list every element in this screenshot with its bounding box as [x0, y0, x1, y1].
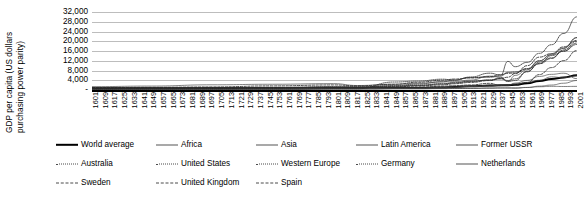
- x-axis-tick-label: 1993: [567, 92, 574, 108]
- x-axis-tick-label: 1881: [432, 92, 439, 108]
- x-axis-tick-label: 1985: [558, 92, 565, 108]
- legend-item-label: Germany: [381, 159, 415, 168]
- series-line: [92, 44, 577, 88]
- x-axis-tick-label: 1641: [141, 92, 148, 108]
- x-axis-tick-label: 1857: [402, 92, 409, 108]
- x-axis-tick-label: 1873: [422, 92, 429, 108]
- x-axis-tick-label: 1737: [257, 92, 264, 108]
- legend-line-swatch-icon: [356, 159, 378, 168]
- x-axis-tick-label: 1817: [354, 92, 361, 108]
- y-axis-tick-label: 4,000: [68, 76, 89, 84]
- x-axis-tick-label: 1769: [296, 92, 303, 108]
- x-axis-tick-label: 1681: [189, 92, 196, 108]
- x-axis-tick-label: 1793: [325, 92, 332, 108]
- y-axis-tick-label: -: [85, 86, 88, 94]
- series-line: [92, 40, 577, 88]
- x-axis-tick-label: 1865: [412, 92, 419, 108]
- x-axis-tick-label: 1665: [170, 92, 177, 108]
- legend-item-label: Western Europe: [281, 159, 340, 168]
- y-axis-tick-labels: -4,0008,00012,00016,00020,00024,00028,00…: [44, 12, 90, 90]
- x-axis-tick-label: 1809: [344, 92, 351, 108]
- x-axis-tick-label: 1617: [111, 92, 118, 108]
- legend-item-label: United States: [181, 159, 230, 168]
- x-axis-tick-label: 1673: [179, 92, 186, 108]
- legend-item-label: Former USSR: [481, 140, 532, 149]
- x-axis-tick-label: 1801: [335, 92, 342, 108]
- x-axis-tick-label: 1889: [441, 92, 448, 108]
- x-axis-tick-label: 1937: [499, 92, 506, 108]
- legend-item[interactable]: Africa: [156, 136, 256, 153]
- legend-row: AustraliaUnited StatesWestern EuropeGerm…: [56, 155, 556, 172]
- legend-item-label: Africa: [181, 140, 202, 149]
- x-axis-tick-label: 1657: [160, 92, 167, 108]
- x-axis-tick-label: 1841: [383, 92, 390, 108]
- x-axis-tick-label: 1921: [480, 92, 487, 108]
- legend-item[interactable]: Netherlands: [456, 155, 556, 172]
- y-axis-title: GDP per capita (US dollars purchasing po…: [0, 0, 46, 133]
- legend-line-swatch-icon: [156, 159, 178, 168]
- legend-line-swatch-icon: [456, 159, 478, 168]
- x-axis-tick-label: 1977: [548, 92, 555, 108]
- x-axis-tick-label: 1761: [286, 92, 293, 108]
- legend-line-swatch-icon: [156, 140, 178, 149]
- legend-item[interactable]: United States: [156, 155, 256, 172]
- legend-item-label: Sweden: [81, 178, 111, 187]
- chart-legend: World averageAfricaAsiaLatin AmericaForm…: [56, 136, 556, 194]
- legend-item[interactable]: Germany: [356, 155, 456, 172]
- x-axis-tick-label: 1929: [490, 92, 497, 108]
- x-axis-tick-label: 1721: [238, 92, 245, 108]
- x-axis-tick-label: 1785: [315, 92, 322, 108]
- y-axis-tick-label: 28,000: [63, 18, 88, 26]
- x-axis-tick-label: 1729: [247, 92, 254, 108]
- series-line: [92, 73, 577, 88]
- y-axis-title-line-1: GDP per capita (US dollars: [5, 32, 14, 133]
- legend-item[interactable]: Western Europe: [256, 155, 356, 172]
- legend-item[interactable]: United Kingdom: [156, 174, 256, 191]
- series-line: [92, 43, 577, 88]
- legend-item[interactable]: Former USSR: [456, 136, 556, 153]
- x-axis-tick-label: 1833: [373, 92, 380, 108]
- legend-line-swatch-icon: [56, 159, 78, 168]
- y-axis-tick-label: 16,000: [63, 47, 88, 55]
- legend-line-swatch-icon: [456, 140, 478, 149]
- x-axis-tick-label: 1897: [451, 92, 458, 108]
- legend-item[interactable]: Latin America: [356, 136, 456, 153]
- series-lines: [92, 12, 577, 90]
- legend-item[interactable]: Australia: [56, 155, 156, 172]
- x-axis-tick-label: 1609: [102, 92, 109, 108]
- legend-line-swatch-icon: [256, 178, 278, 187]
- plot-area: [92, 12, 577, 92]
- x-axis-tick-label: 1945: [509, 92, 516, 108]
- legend-line-swatch-icon: [256, 140, 278, 149]
- x-axis-tick-label: 1745: [267, 92, 274, 108]
- legend-line-swatch-icon: [156, 178, 178, 187]
- legend-item-label: World average: [81, 140, 134, 149]
- x-axis-tick-label: 1905: [461, 92, 468, 108]
- x-axis-tick-label: 1913: [470, 92, 477, 108]
- legend-line-swatch-icon: [256, 159, 278, 168]
- series-line: [92, 41, 577, 88]
- legend-item[interactable]: Sweden: [56, 174, 156, 191]
- x-axis-tick-label: 1953: [519, 92, 526, 108]
- x-axis-tick-label: 1713: [228, 92, 235, 108]
- y-axis-tick-label: 12,000: [63, 57, 88, 65]
- legend-row: SwedenUnited KingdomSpain: [56, 174, 556, 191]
- x-axis-tick-label: 1825: [364, 92, 371, 108]
- legend-item[interactable]: World average: [56, 136, 156, 153]
- x-axis-tick-label: 1753: [276, 92, 283, 108]
- legend-item-label: Netherlands: [481, 159, 525, 168]
- legend-line-swatch-icon: [56, 178, 78, 187]
- x-axis-tick-label: 1777: [305, 92, 312, 108]
- legend-item[interactable]: Asia: [256, 136, 356, 153]
- x-axis-tick-label: 1689: [199, 92, 206, 108]
- legend-item-label: Latin America: [381, 140, 431, 149]
- x-axis-tick-label: 1633: [131, 92, 138, 108]
- y-axis-title-line-2: purchasing power parity): [16, 41, 25, 133]
- legend-item[interactable]: Spain: [256, 174, 356, 191]
- y-axis-tick-label: 24,000: [63, 28, 88, 36]
- chart-figure: GDP per capita (US dollars purchasing po…: [0, 0, 588, 199]
- series-line: [92, 38, 577, 90]
- y-axis-tick-label: 8,000: [68, 67, 89, 75]
- series-line: [92, 51, 577, 88]
- x-axis-tick-label: 1969: [538, 92, 545, 108]
